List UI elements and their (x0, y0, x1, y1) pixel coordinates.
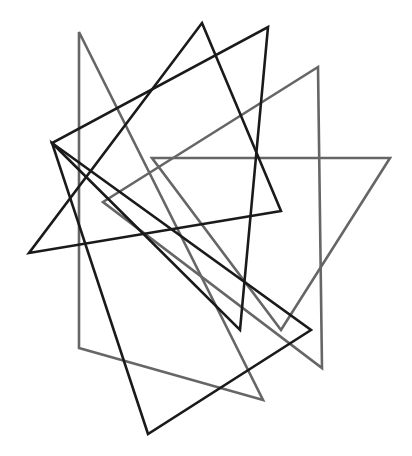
geometric-figure-canvas (0, 0, 412, 456)
